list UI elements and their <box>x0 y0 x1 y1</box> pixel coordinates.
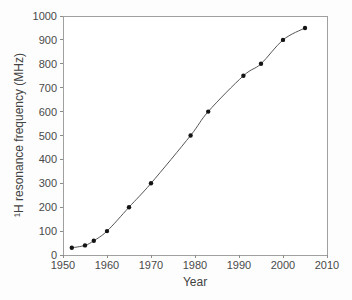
data-point <box>241 74 245 78</box>
x-tick-label: 1960 <box>95 259 119 271</box>
data-point <box>303 26 307 30</box>
plot-frame <box>63 16 327 255</box>
y-tick-label: 500 <box>39 130 57 142</box>
x-tick-label: 1980 <box>183 259 207 271</box>
y-tick-label: 1000 <box>33 10 57 22</box>
y-tick-label: 200 <box>39 201 57 213</box>
y-tick-label: 0 <box>51 249 57 261</box>
y-tick-label: 700 <box>39 82 57 94</box>
data-point <box>206 109 210 113</box>
x-tick-label: 1990 <box>227 259 251 271</box>
y-tick-label: 800 <box>39 58 57 70</box>
data-point <box>188 133 192 137</box>
y-tick-label: 100 <box>39 225 57 237</box>
data-point <box>149 181 153 185</box>
y-tick-label: 600 <box>39 106 57 118</box>
y-tick-label: 300 <box>39 177 57 189</box>
data-point <box>70 246 74 250</box>
data-point <box>92 239 96 243</box>
x-tick-label: 2000 <box>271 259 295 271</box>
data-point <box>259 62 263 66</box>
x-tick-label: 2010 <box>315 259 339 271</box>
y-tick-label: 900 <box>39 34 57 46</box>
data-point <box>105 229 109 233</box>
data-point <box>281 38 285 42</box>
x-tick-label: 1970 <box>139 259 163 271</box>
chart-canvas: 1950196019701980199020002010010020030040… <box>0 0 352 300</box>
y-tick-label: 400 <box>39 153 57 165</box>
data-point <box>83 243 87 247</box>
data-point <box>127 205 131 209</box>
nmr-frequency-line-chart: 1950196019701980199020002010010020030040… <box>0 0 352 300</box>
x-axis-title: Year <box>63 276 327 288</box>
y-axis-title: ¹H resonance frequency (MHz) <box>12 53 26 217</box>
